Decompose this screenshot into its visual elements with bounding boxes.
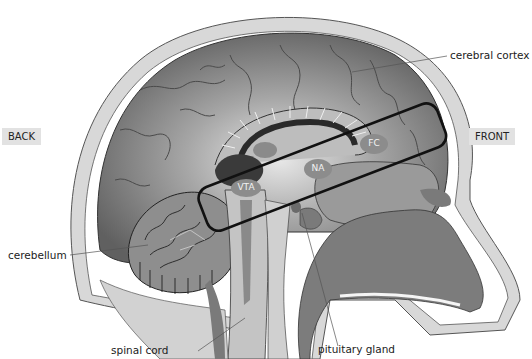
back-tag: BACK xyxy=(2,128,41,145)
label-spinal-cord: spinal cord xyxy=(111,344,168,356)
label-fc: FC xyxy=(360,138,388,148)
front-tag: FRONT xyxy=(469,128,515,145)
label-cerebellum: cerebellum xyxy=(8,249,67,261)
label-na: NA xyxy=(304,163,332,173)
label-cerebral-cortex: cerebral cortex xyxy=(450,49,530,61)
label-vta: VTA xyxy=(231,182,261,192)
label-pituitary-gland: pituitary gland xyxy=(318,343,395,355)
